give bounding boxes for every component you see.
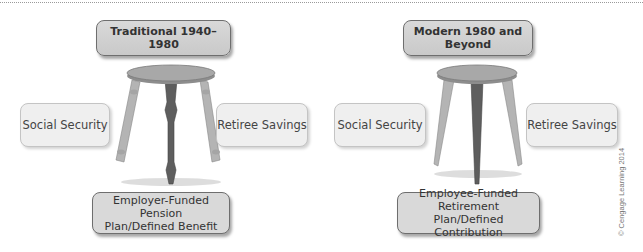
modern-social-security-box: Social Security [334,103,426,147]
traditional-retiree-savings-box: Retiree Savings [216,103,308,147]
retirement-plan-label-line1: Employee-Funded Retirement [398,187,539,213]
traditional-title: Traditional 1940–1980 [97,25,230,51]
tapered-leg-stool-icon [428,62,528,192]
copyright-credit: © Cengage Learning 2014 [617,148,626,236]
social-security-label: Social Security [23,119,108,132]
turned-leg-stool-icon [110,62,230,192]
pension-label-line2: Plan/Defined Benefit [105,220,218,233]
modern-retiree-savings-box: Retiree Savings [526,103,618,147]
top-dotted-rule [0,2,643,3]
retiree-savings-label: Retiree Savings [217,119,306,132]
pension-label-line1: Employer-Funded Pension [93,194,229,220]
modern-title-box: Modern 1980 and Beyond [403,20,533,56]
social-security-label: Social Security [338,119,423,132]
traditional-title-box: Traditional 1940–1980 [96,20,231,56]
traditional-pension-box: Employer-Funded Pension Plan/Defined Ben… [92,192,230,234]
retirement-plan-label-line2: Plan/Defined Contribution [398,213,539,239]
traditional-social-security-box: Social Security [20,103,110,147]
modern-title: Modern 1980 and Beyond [404,25,532,51]
modern-retirement-plan-box: Employee-Funded Retirement Plan/Defined … [397,192,540,234]
retiree-savings-label: Retiree Savings [527,119,616,132]
